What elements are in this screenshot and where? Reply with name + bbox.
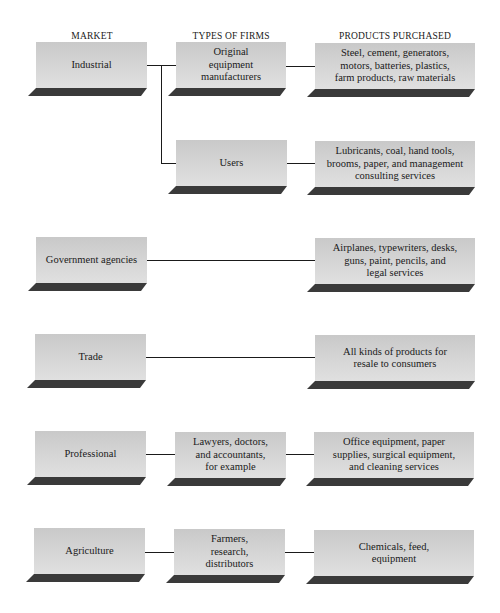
box-shadow [306,478,474,486]
market-label: Industrial [71,59,111,72]
firm-label-line: research, [206,546,254,559]
products-box-agriculture: Chemicals, feed, equipment [314,530,474,576]
products-line: Lubricants, coal, hand tools, [327,145,463,158]
box-shadow [306,576,474,584]
box-shadow [28,88,147,96]
market-box-trade: Trade [35,334,146,380]
products-line: guns, paint, pencils, and [333,255,458,268]
connector-line [147,260,315,261]
box-shadow [307,89,475,97]
products-line: equipment [359,553,429,566]
market-label: Trade [78,351,102,364]
products-line: legal services [333,267,458,280]
connector-line [285,552,314,553]
firm-label-line: equipment [201,59,261,72]
box-shadow [307,381,475,389]
products-line: Office equipment, paper [333,436,455,449]
market-label: Agriculture [65,545,113,558]
market-box-government: Government agencies [36,237,147,283]
products-line: consulting services [327,170,463,183]
connector-line [146,454,175,455]
products-line: Steel, cement, generators, [335,47,456,60]
products-line: Airplanes, typewriters, desks, [333,242,458,255]
header-types-of-firms: TYPES OF FIRMS [170,31,292,41]
firm-box-agriculture: Farmers, research, distributors [174,529,285,575]
products-box-government: Airplanes, typewriters, desks, guns, pai… [315,238,475,284]
products-box-oem: Steel, cement, generators, motors, batte… [315,43,475,89]
firm-label-line: Farmers, [206,533,254,546]
products-line: resale to consumers [343,358,447,371]
market-box-professional: Professional [35,431,146,477]
products-line: Chemicals, feed, [359,541,429,554]
connector-line [161,163,176,164]
connector-line [286,66,315,67]
products-box-users: Lubricants, coal, hand tools, brooms, pa… [315,141,475,187]
box-shadow [27,380,146,388]
box-shadow [307,284,475,292]
box-shadow [168,88,286,96]
firm-box-professional: Lawyers, doctors, and accountants, for e… [175,432,286,478]
box-shadow [27,477,146,485]
firm-label-line: for example [193,461,268,474]
products-line: and cleaning services [333,461,455,474]
firm-label: Users [220,157,244,170]
products-line: motors, batteries, plastics, [335,60,456,73]
box-shadow [166,575,285,583]
connector-line [161,65,162,163]
market-box-industrial: Industrial [36,42,147,88]
firm-label-line: and accountants, [193,449,268,462]
market-label: Professional [65,448,117,461]
connector-line [145,552,174,553]
header-market: MARKET [36,31,148,41]
products-line: All kinds of products for [343,346,447,359]
box-shadow [307,187,475,195]
firm-label-line: Lawyers, doctors, [193,436,268,449]
firm-box-oem: Original equipment manufacturers [176,42,286,88]
market-label: Government agencies [46,254,137,267]
box-shadow [28,283,147,291]
firm-label-line: Original [201,46,261,59]
products-box-professional: Office equipment, paper supplies, surgic… [314,432,474,478]
firm-label-line: manufacturers [201,71,261,84]
products-line: brooms, paper, and management [327,158,463,171]
connector-line [287,163,315,164]
market-box-agriculture: Agriculture [34,528,145,574]
connector-line [146,357,315,358]
box-shadow [167,478,286,486]
products-line: supplies, surgical equipment, [333,449,455,462]
products-box-trade: All kinds of products for resale to cons… [315,335,475,381]
box-shadow [168,186,287,194]
firm-box-users: Users [176,140,287,186]
connector-line [286,454,314,455]
firm-label-line: distributors [206,558,254,571]
products-line: farm products, raw materials [335,72,456,85]
box-shadow [26,574,145,582]
header-products-purchased: PRODUCTS PURCHASED [315,31,475,41]
